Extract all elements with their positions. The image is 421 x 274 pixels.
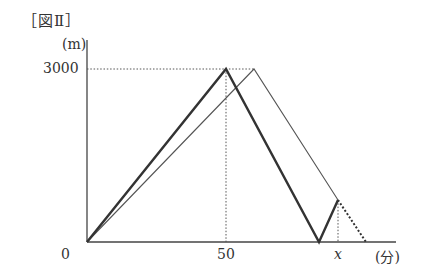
x-unit-label: (分) <box>375 246 400 266</box>
y-tick-3000: 3000 <box>43 60 79 76</box>
series-thin-line-extension <box>338 200 366 242</box>
y-unit-label: (m) <box>62 36 86 52</box>
series-thick-line <box>87 69 338 242</box>
x-tick-50: 50 <box>217 246 235 262</box>
x-tick-x: x <box>334 246 342 262</box>
series-thin-line <box>87 69 338 242</box>
origin-label: 0 <box>61 246 70 262</box>
